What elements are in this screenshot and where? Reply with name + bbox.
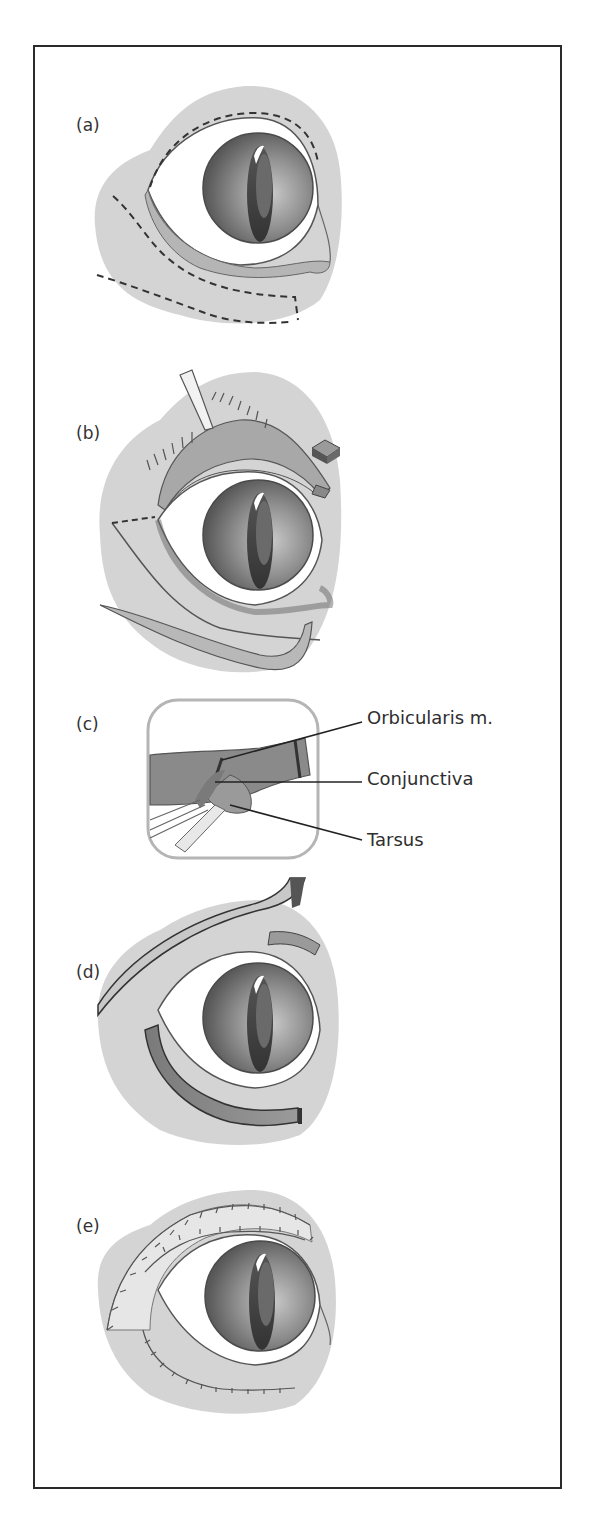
panel-label-c: (c) — [76, 714, 99, 734]
callout-tarsus: Tarsus — [367, 829, 424, 850]
callout-orbicularis: Orbicularis m. — [367, 707, 493, 728]
callout-conjunctiva: Conjunctiva — [367, 768, 473, 789]
panel-label-b: (b) — [76, 423, 100, 443]
panel-a-illustration — [95, 86, 342, 324]
eyelid-surgery-illustration — [0, 0, 593, 1519]
panel-label-d: (d) — [76, 962, 100, 982]
panel-label-e: (e) — [76, 1216, 100, 1236]
panel-e-illustration — [98, 1190, 336, 1414]
panel-c-inset — [148, 700, 318, 858]
panel-d-illustration — [98, 878, 339, 1145]
panel-b-illustration — [99, 370, 341, 672]
panel-label-a: (a) — [76, 115, 100, 135]
